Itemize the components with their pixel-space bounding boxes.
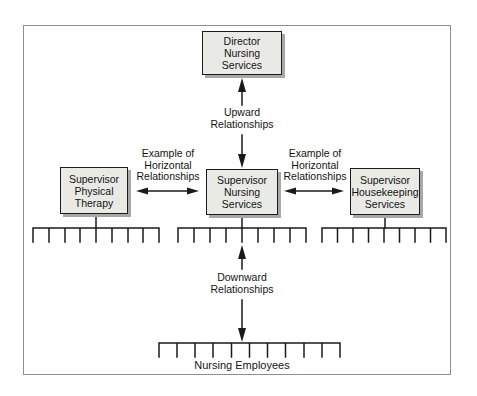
horizontal-relationships-label-left: Example of Horizontal Relationships xyxy=(118,148,218,183)
org-relationships-diagram: Director Nursing Services Supervisor Phy… xyxy=(0,0,477,396)
upward-relationships-label: Upward Relationships xyxy=(192,107,292,130)
director-nursing-services-box: Director Nursing Services xyxy=(202,31,282,75)
nursing-employees-label: Nursing Employees xyxy=(172,360,312,372)
horizontal-relationships-label-right: Example of Horizontal Relationships xyxy=(265,148,365,183)
downward-relationships-label: Downward Relationships xyxy=(192,272,292,295)
